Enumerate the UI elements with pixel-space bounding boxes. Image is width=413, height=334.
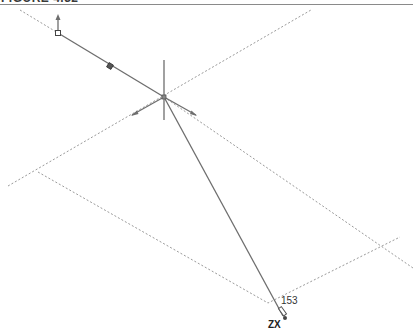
axis-indicator-label: ZX bbox=[268, 319, 281, 330]
origin-point[interactable] bbox=[162, 95, 166, 99]
up-arrow-icon bbox=[56, 14, 61, 20]
construction-line-diagonal bbox=[164, 97, 413, 268]
sketch-canvas[interactable]: 153 ZX bbox=[0, 0, 413, 334]
plane-outline-lower bbox=[38, 172, 400, 303]
construction-line-upper-left bbox=[20, 10, 58, 33]
endpoint-handle[interactable] bbox=[56, 31, 61, 36]
dimension-label[interactable]: 153 bbox=[281, 295, 298, 306]
endpoint-marker-bottom[interactable] bbox=[278, 307, 287, 320]
sketch-line-long[interactable] bbox=[164, 97, 283, 316]
construction-line-upper-right bbox=[8, 10, 311, 186]
